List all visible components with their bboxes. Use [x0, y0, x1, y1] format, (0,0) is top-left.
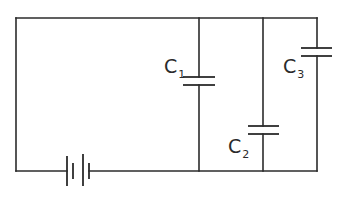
- battery-symbol: [67, 154, 89, 186]
- circuit-diagram: C1 C2 C3: [0, 0, 350, 198]
- c1-label: C1: [164, 55, 185, 81]
- c2-label: C2: [228, 135, 249, 161]
- capacitor-c2: [248, 18, 279, 171]
- capacitor-c3: [301, 18, 332, 171]
- c3-label: C3: [283, 55, 304, 81]
- capacitor-c1: [183, 18, 215, 171]
